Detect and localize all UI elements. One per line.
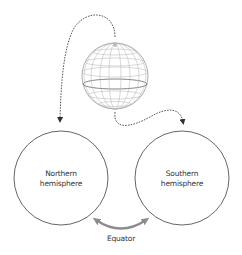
arrow-to-southern: [115, 110, 183, 125]
northern-label-line1: Northern: [31, 169, 91, 179]
globe-icon: [82, 43, 148, 109]
northern-label-line2: hemisphere: [31, 179, 91, 189]
northern-hemisphere-label: Northern hemisphere: [31, 169, 91, 189]
diagram-canvas: [0, 0, 242, 255]
southern-label-line2: hemisphere: [152, 179, 212, 189]
southern-hemisphere-label: Southern hemisphere: [152, 169, 212, 189]
equator-arrow: [96, 220, 146, 229]
southern-label-line1: Southern: [152, 169, 212, 179]
equator-label: Equator: [96, 234, 146, 244]
